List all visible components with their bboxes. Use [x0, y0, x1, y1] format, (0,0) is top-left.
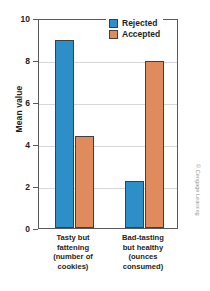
x-axis-label-group-1: Tasty butfattening(number ofcookies): [40, 233, 106, 271]
chart-legend: Rejected Accepted: [106, 17, 163, 41]
legend-swatch-rejected-icon: [109, 19, 118, 28]
x-axis-label-group-2: Bad-tastingbut healthy(ouncesconsumed): [110, 233, 176, 271]
y-axis-tick-label: 6: [0, 98, 30, 108]
legend-swatch-accepted-icon: [109, 30, 118, 39]
x-axis-label-line: (ounces: [110, 252, 176, 262]
y-axis-title: Mean value: [14, 74, 24, 144]
bar-accepted-group-2: [145, 61, 164, 228]
legend-item-rejected: Rejected: [109, 19, 160, 28]
x-axis-label-line: consumed): [110, 262, 176, 272]
x-axis-label-line: but healthy: [110, 243, 176, 253]
y-axis-tick-mark: [33, 229, 38, 230]
plot-area: [38, 19, 178, 229]
legend-label-accepted: Accepted: [122, 30, 160, 39]
bar-accepted-group-1: [75, 136, 94, 228]
x-axis-label-line: (number of: [40, 252, 106, 262]
y-axis-tick-label: 0: [0, 224, 30, 234]
legend-item-accepted: Accepted: [109, 30, 160, 39]
y-axis-tick-label: 8: [0, 56, 30, 66]
x-axis-label-line: cookies): [40, 262, 106, 272]
x-axis-label-line: fattening: [40, 243, 106, 253]
y-axis-tick-label: 10: [0, 14, 30, 24]
bar-rejected-group-2: [125, 181, 144, 228]
bar-chart-figure: Mean value 0246810 Rejected Accepted Tas…: [0, 0, 210, 291]
y-axis-tick-label: 4: [0, 140, 30, 150]
y-axis-tick-label: 2: [0, 182, 30, 192]
bar-rejected-group-1: [55, 40, 74, 228]
legend-label-rejected: Rejected: [122, 19, 157, 28]
x-axis-label-line: Bad-tasting: [110, 233, 176, 243]
copyright-credit: © Cengage Learning: [195, 164, 201, 234]
x-axis-label-line: Tasty but: [40, 233, 106, 243]
